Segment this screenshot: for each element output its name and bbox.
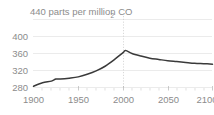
co2-series-line	[34, 51, 213, 87]
x-axis-minor-ticks	[42, 86, 213, 91]
y-tick-label-280: 280	[12, 82, 28, 93]
chart-title-subscript: 2	[111, 12, 115, 19]
y-tick-label-400: 400	[12, 31, 28, 42]
co2-concentration-chart: 440 parts per million CO 2 400 360 320 2…	[0, 0, 214, 115]
y-tick-label-320: 320	[12, 65, 28, 76]
chart-canvas: 440 parts per million CO 2 400 360 320 2…	[0, 0, 214, 115]
x-tick-label-2000: 2000	[113, 94, 134, 105]
y-tick-label-360: 360	[12, 48, 28, 59]
x-tick-label-2050: 2050	[158, 94, 179, 105]
chart-title: 440 parts per million CO	[30, 6, 132, 17]
x-tick-label-1950: 1950	[68, 94, 89, 105]
x-tick-label-1900: 1900	[23, 94, 44, 105]
x-tick-label-2100: 2100	[196, 94, 214, 105]
